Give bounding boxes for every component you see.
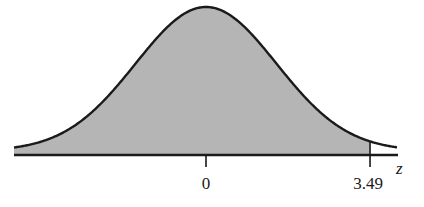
normal-distribution-chart: 03.49 z <box>0 0 424 207</box>
tick-label-0: 0 <box>202 174 211 193</box>
z-axis-label: z <box>395 159 403 178</box>
shaded-area <box>14 7 370 155</box>
tick-label-3.49: 3.49 <box>353 174 383 193</box>
